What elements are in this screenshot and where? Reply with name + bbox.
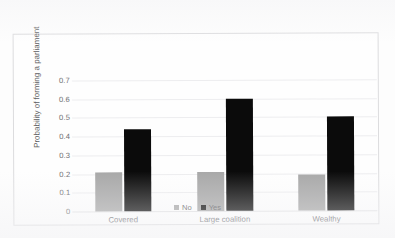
y-axis-title: Probability of forming a parliament [32, 12, 42, 162]
legend-swatch-no-icon [174, 205, 179, 210]
y-axis-tick-label: 0.3 [59, 151, 70, 160]
legend-entry-yes: Yes [201, 203, 221, 212]
chart-legend: No Yes [0, 203, 395, 212]
gridlines [72, 79, 377, 80]
legend-label-yes: Yes [209, 203, 221, 212]
bar-yes-large-coalition [225, 98, 252, 210]
figure-frame: Probability of forming a parliament 0.70… [13, 32, 380, 226]
legend-entry-no: No [174, 203, 192, 212]
y-axis-tick-label: 0.7 [59, 76, 70, 85]
x-axis-tick-label: Wealthy [313, 214, 341, 223]
x-axis-tick-labels: CoveredLarge coalitionWealthy [72, 214, 377, 229]
y-axis-tick-label: 0.4 [59, 132, 70, 141]
y-axis-tick-label: 0.5 [59, 113, 70, 122]
bar-yes-covered [124, 129, 151, 211]
legend-label-no: No [182, 203, 192, 212]
x-axis-tick-label: Large coalition [200, 215, 251, 224]
gridline [72, 98, 377, 100]
gridline [72, 79, 377, 81]
x-axis-tick-label: Covered [108, 215, 138, 224]
legend-swatch-yes-icon [201, 205, 206, 210]
bar-chart-figure: Probability of forming a parliament 0.70… [0, 0, 395, 238]
bar-yes-wealthy [327, 117, 354, 211]
plot-area [72, 79, 378, 211]
y-axis-tick-label: 0.1 [59, 188, 70, 197]
y-axis-tick-label: 0.6 [59, 95, 70, 104]
y-axis-tick-labels: 0.70.60.50.40.30.20.10 [48, 81, 71, 212]
y-axis-tick-label: 0.2 [59, 170, 70, 179]
